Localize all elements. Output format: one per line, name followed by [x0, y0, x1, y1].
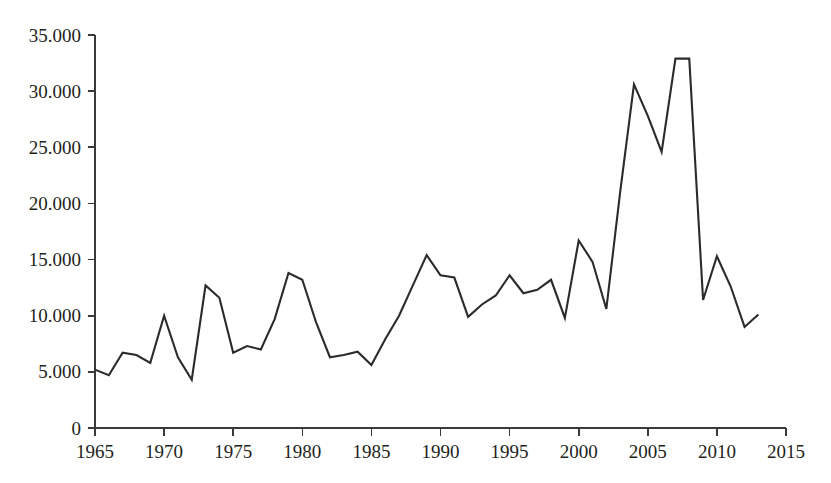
- x-tick-label: 2000: [560, 441, 598, 462]
- x-tick-label: 1975: [214, 441, 252, 462]
- x-tick-label: 1995: [491, 441, 529, 462]
- line-chart: 05.00010.00015.00020.00025.00030.00035.0…: [0, 0, 831, 483]
- data-series-group: [95, 59, 758, 380]
- y-tick-label: 30.000: [29, 81, 81, 102]
- x-tick-label: 2015: [767, 441, 805, 462]
- y-tick-label: 25.000: [29, 137, 81, 158]
- x-tick-label: 2005: [629, 441, 667, 462]
- x-tick-label: 2010: [698, 441, 736, 462]
- data-line-series-1: [95, 59, 758, 380]
- y-tick-label: 10.000: [29, 305, 81, 326]
- x-axis: 1965197019751980198519901995200020052010…: [76, 428, 805, 462]
- y-tick-label: 5.000: [38, 361, 81, 382]
- y-tick-label: 0: [72, 418, 82, 439]
- chart-canvas: 05.00010.00015.00020.00025.00030.00035.0…: [0, 0, 831, 483]
- x-tick-label: 1970: [145, 441, 183, 462]
- x-tick-label: 1985: [352, 441, 390, 462]
- y-tick-label: 20.000: [29, 193, 81, 214]
- x-tick-label: 1965: [76, 441, 114, 462]
- x-tick-label: 1990: [422, 441, 460, 462]
- y-tick-label: 35.000: [29, 25, 81, 46]
- y-axis: 05.00010.00015.00020.00025.00030.00035.0…: [29, 25, 95, 439]
- x-tick-label: 1980: [283, 441, 321, 462]
- y-tick-label: 15.000: [29, 249, 81, 270]
